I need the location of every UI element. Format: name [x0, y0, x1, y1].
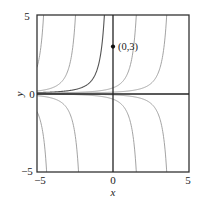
- solution-curve: [37, 94, 167, 175]
- slope-field-chart: (0,3) 5 0 −5 y −5 0 5 x: [0, 0, 200, 206]
- point-label: (0,3): [118, 41, 139, 53]
- solution-curve: [37, 12, 167, 93]
- y-tick-max: 5: [24, 10, 30, 22]
- solution-curve: [37, 112, 47, 176]
- point-marker: [111, 45, 115, 49]
- x-axis-label: x: [110, 186, 116, 198]
- solution-curve: [37, 12, 44, 68]
- y-axis-label: y: [13, 91, 25, 97]
- y-tick-zero: 0: [29, 88, 35, 100]
- solution-curve: [37, 12, 137, 93]
- solution-curve: [37, 12, 105, 93]
- x-tick-max: 5: [185, 174, 191, 186]
- y-tick-min: −5: [21, 165, 33, 177]
- x-tick-min: −5: [34, 174, 46, 186]
- x-tick-zero: 0: [110, 174, 116, 186]
- solution-curve: [37, 94, 137, 175]
